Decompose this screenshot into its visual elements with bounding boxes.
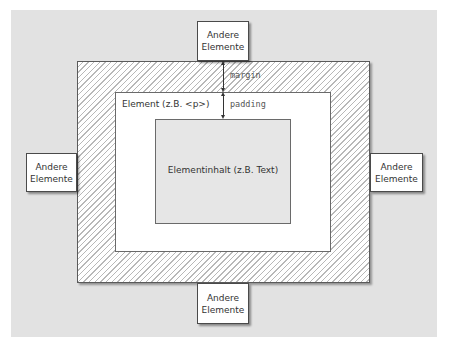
neighbor-bottom: Andere Elemente — [197, 283, 249, 324]
neighbor-right-line1: Andere — [380, 161, 412, 173]
neighbor-bottom-line1: Andere — [207, 292, 239, 304]
neighbor-left-line1: Andere — [35, 161, 67, 173]
neighbor-right: Andere Elemente — [370, 153, 423, 192]
neighbor-top-line2: Elemente — [202, 41, 245, 53]
padding-arrow-bottom-icon — [221, 115, 225, 119]
margin-arrow-line — [223, 63, 224, 90]
padding-label: padding — [230, 99, 266, 109]
neighbor-top: Andere Elemente — [197, 21, 249, 61]
content-label: Elementinhalt (z.B. Text) — [155, 165, 291, 175]
margin-label: margin — [230, 70, 261, 80]
element-label: Element (z.B. <p>) — [122, 99, 209, 109]
neighbor-bottom-line2: Elemente — [202, 304, 245, 316]
neighbor-left-line2: Elemente — [30, 173, 73, 185]
neighbor-right-line2: Elemente — [375, 173, 418, 185]
neighbor-left: Andere Elemente — [26, 153, 77, 192]
neighbor-top-line1: Andere — [207, 29, 239, 41]
padding-arrow-line — [223, 94, 224, 117]
